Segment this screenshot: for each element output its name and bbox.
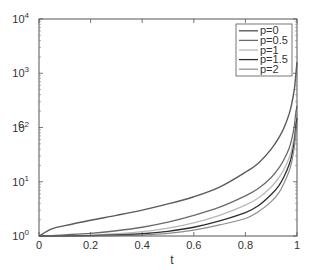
x-tick-label: 0 xyxy=(36,239,42,251)
x-tick-label: 0.2 xyxy=(83,239,98,251)
y-tick-label: 104 xyxy=(12,11,29,25)
legend-label: p=2 xyxy=(260,63,279,75)
y-axis-label: c xyxy=(18,117,24,131)
x-tick-label: 0.8 xyxy=(238,239,253,251)
x-axis-label: t xyxy=(170,253,174,267)
x-tick-label: 1 xyxy=(294,239,300,251)
y-tick-label: 100 xyxy=(12,228,29,242)
x-tick-label: 0.4 xyxy=(135,239,150,251)
x-tick-label: 0.6 xyxy=(186,239,201,251)
y-tick-label: 101 xyxy=(12,174,29,188)
line-chart: 00.20.40.60.81100101102103104 t c p=0p=0… xyxy=(0,0,311,270)
y-tick-label: 103 xyxy=(12,65,29,79)
legend: p=0p=0.5p=1p=1.5p=2 xyxy=(236,24,292,76)
